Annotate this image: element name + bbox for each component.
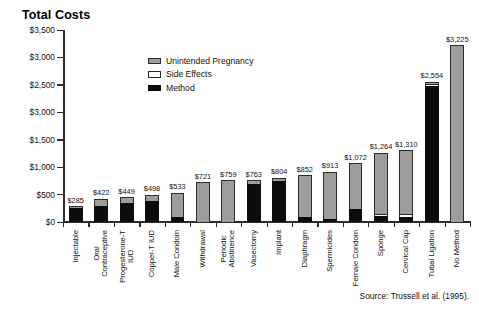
bar-segment-unintended-pregnancy — [94, 199, 108, 206]
bar-segment-method — [399, 217, 413, 222]
legend-item-unintended-pregnancy: Unintended Pregnancy — [148, 56, 253, 66]
x-axis-category-label: Male Condom — [177, 230, 178, 302]
x-axis-category-label: Injectable — [76, 230, 77, 302]
category-label-line: Vasectomy — [250, 230, 258, 267]
bar-value-label: $1,310 — [395, 140, 418, 149]
bar-segment-unintended-pregnancy — [374, 153, 388, 215]
bar-value-label: $3,225 — [446, 35, 469, 44]
bar-segment-unintended-pregnancy — [450, 45, 464, 222]
legend-swatch-method — [148, 85, 161, 92]
x-axis-category-label: Diaphragm — [305, 230, 306, 302]
x-axis-category-label: Copper-T IUD — [152, 230, 153, 302]
y-axis-label: $1,500 — [3, 135, 55, 145]
category-label-text: Spermicides — [326, 230, 334, 272]
legend-label-method: Method — [166, 83, 195, 93]
bar-segment-method — [323, 219, 337, 222]
legend-swatch-side-effects — [148, 71, 161, 78]
bar[interactable]: $1,264 — [374, 153, 388, 222]
category-label-text: Sponge — [377, 230, 385, 256]
x-axis-tick — [470, 221, 471, 227]
bar[interactable]: $759 — [221, 180, 235, 222]
bar-value-label: $498 — [144, 184, 160, 193]
x-axis-category-label: Withdrawal — [203, 230, 204, 302]
x-axis-category-label: Implant — [279, 230, 280, 302]
category-label-text: OralContraceptive — [93, 230, 110, 277]
bar-value-label: $913 — [322, 161, 338, 170]
category-label-line: Male Condom — [173, 230, 181, 277]
category-label-text: PeriodicAbstinence — [220, 230, 237, 268]
y-axis-label: $0 — [3, 217, 55, 227]
y-axis-label: $500 — [3, 190, 55, 200]
bar[interactable]: $3,225 — [450, 45, 464, 222]
y-axis-label: $1,000 — [3, 162, 55, 172]
bar[interactable]: $1,072 — [349, 163, 363, 222]
y-axis-labels: $3,500$3,000$2,500$3,000$1,500$1,000$500… — [0, 0, 55, 310]
category-label-text: Tubal Ligation — [428, 230, 436, 277]
category-label-text: Copper-T IUD — [148, 230, 156, 277]
bar[interactable]: $2,554 — [425, 82, 439, 222]
bar-segment-unintended-pregnancy — [298, 175, 312, 217]
x-axis-category-label: Vasectomy — [254, 230, 255, 302]
bar-value-label: $285 — [67, 196, 83, 205]
bar[interactable]: $804 — [272, 178, 286, 222]
legend-label-side-effects: Side Effects — [166, 69, 212, 79]
x-axis-category-label: Progesterone-TIUD — [127, 230, 128, 302]
category-label-text: Diaphragm — [300, 230, 308, 267]
category-label-line: Diaphragm — [300, 230, 308, 267]
bar-value-label: $804 — [271, 167, 287, 176]
bar-segment-method — [94, 206, 108, 222]
bar-segment-unintended-pregnancy — [196, 182, 210, 222]
y-axis-label: $3,000 — [3, 107, 55, 117]
category-label-line: Cervical Cap — [402, 230, 410, 273]
bar-segment-method — [69, 208, 83, 222]
category-label-text: Male Condom — [173, 230, 181, 277]
bar-value-label: $852 — [296, 165, 312, 174]
bar-value-label: $2,554 — [421, 71, 444, 80]
category-label-line: Copper-T IUD — [148, 230, 156, 277]
bar[interactable]: $498 — [145, 195, 159, 222]
bar-value-label: $721 — [195, 172, 211, 181]
category-label-line: Abstinence — [228, 230, 236, 268]
bar[interactable]: $285 — [69, 206, 83, 222]
legend-swatch-unintended-pregnancy — [148, 58, 161, 65]
bar-value-label: $533 — [169, 182, 185, 191]
y-axis-label: $2,500 — [3, 80, 55, 90]
category-label-text: Female Condom — [351, 230, 359, 286]
bar[interactable]: $1,310 — [399, 150, 413, 222]
category-label-line: IUD — [127, 230, 135, 283]
category-label-text: Injectable — [72, 230, 80, 263]
chart-container: Total Costs $3,500$3,000$2,500$3,000$1,5… — [0, 0, 479, 310]
bar[interactable]: $852 — [298, 175, 312, 222]
bar[interactable]: $721 — [196, 182, 210, 222]
category-label-line: Injectable — [72, 230, 80, 263]
legend-item-side-effects: Side Effects — [148, 69, 253, 79]
bar[interactable]: $913 — [323, 172, 337, 222]
x-axis-category-label: OralContraceptive — [101, 230, 102, 302]
bar[interactable]: $422 — [94, 199, 108, 222]
category-label-text: Progesterone-TIUD — [118, 230, 135, 283]
bar-segment-method — [145, 201, 159, 222]
category-label-text: Vasectomy — [250, 230, 258, 267]
x-axis-category-label: Female Condom — [356, 230, 357, 302]
category-label-text: No Method — [453, 230, 461, 267]
bar-segment-unintended-pregnancy — [399, 150, 413, 214]
bar-segment-unintended-pregnancy — [349, 163, 363, 209]
x-axis-category-label: Spermicides — [330, 230, 331, 302]
legend-item-method: Method — [148, 83, 253, 93]
category-label-text: Implant — [275, 230, 283, 255]
bar-value-label: $759 — [220, 170, 236, 179]
bar[interactable]: $449 — [120, 197, 134, 222]
bar-segment-unintended-pregnancy — [323, 172, 337, 219]
category-label-line: Tubal Ligation — [428, 230, 436, 277]
category-label-line: Female Condom — [351, 230, 359, 286]
category-label-line: Spermicides — [326, 230, 334, 272]
bar[interactable]: $533 — [171, 193, 185, 222]
x-axis-category-label: PeriodicAbstinence — [228, 230, 229, 302]
bar[interactable]: $763 — [247, 180, 261, 222]
y-axis-label: $3,000 — [3, 52, 55, 62]
bar-value-label: $422 — [93, 188, 109, 197]
category-label-line: Withdrawal — [199, 230, 207, 268]
y-axis-label: $3,500 — [3, 25, 55, 35]
category-label-text: Cervical Cap — [402, 230, 410, 273]
bar-segment-method — [298, 217, 312, 222]
